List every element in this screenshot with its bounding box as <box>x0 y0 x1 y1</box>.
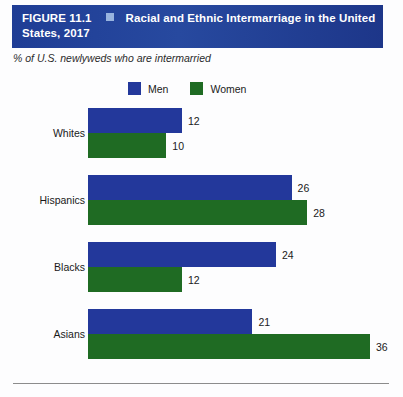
figure-header-line-1: FIGURE 11.1Racial and Ethnic Intermarria… <box>22 11 373 26</box>
figure-title-line-1: Racial and Ethnic Intermarriage in the U… <box>126 12 376 24</box>
bar-hispanics-women <box>88 200 307 225</box>
chart-plot-area: Whites 12 10 Hispanics 26 28 Blacks 24 1… <box>0 108 403 380</box>
bar-value-whites-women: 10 <box>172 140 184 152</box>
legend-label-men: Men <box>148 83 168 95</box>
figure-title-line-2: States, 2017 <box>22 26 373 41</box>
category-label-whites: Whites <box>5 127 85 139</box>
bar-row-whites-men: 12 <box>88 108 200 133</box>
bar-row-asians-men: 21 <box>88 309 270 334</box>
bar-asians-women <box>88 334 370 359</box>
bar-group-asians: Asians 21 36 <box>0 309 403 359</box>
bar-row-hispanics-women: 28 <box>88 200 325 225</box>
bar-value-hispanics-women: 28 <box>313 207 325 219</box>
bar-row-blacks-women: 12 <box>88 267 200 292</box>
bar-asians-men <box>88 309 252 334</box>
bar-whites-women <box>88 133 166 158</box>
bar-value-blacks-women: 12 <box>188 274 200 286</box>
figure-header-bar: FIGURE 11.1Racial and Ethnic Intermarria… <box>12 5 383 48</box>
bar-whites-men <box>88 108 182 133</box>
chart-legend: Men Women <box>128 82 246 95</box>
bar-row-blacks-men: 24 <box>88 242 294 267</box>
figure-number-label: FIGURE 11.1 <box>22 12 92 24</box>
bar-row-asians-women: 36 <box>88 334 388 359</box>
bar-value-asians-women: 36 <box>376 341 388 353</box>
category-label-asians: Asians <box>5 328 85 340</box>
bar-hispanics-men <box>88 175 292 200</box>
bar-value-hispanics-men: 26 <box>298 182 310 194</box>
category-label-blacks: Blacks <box>5 261 85 273</box>
square-bullet-icon <box>106 13 114 21</box>
legend-item-women: Women <box>190 82 246 95</box>
legend-swatch-women-icon <box>190 82 203 95</box>
bar-value-whites-men: 12 <box>188 115 200 127</box>
bar-value-asians-men: 21 <box>258 316 270 328</box>
bar-row-hispanics-men: 26 <box>88 175 309 200</box>
legend-item-men: Men <box>128 82 168 95</box>
bar-group-hispanics: Hispanics 26 28 <box>0 175 403 225</box>
bottom-divider <box>13 383 389 384</box>
bar-group-whites: Whites 12 10 <box>0 108 403 158</box>
bar-row-whites-women: 10 <box>88 133 184 158</box>
legend-swatch-men-icon <box>128 82 141 95</box>
bar-blacks-women <box>88 267 182 292</box>
bar-group-blacks: Blacks 24 12 <box>0 242 403 292</box>
legend-label-women: Women <box>210 83 246 95</box>
category-label-hispanics: Hispanics <box>5 194 85 206</box>
bar-value-blacks-men: 24 <box>282 249 294 261</box>
chart-subtitle: % of U.S. newlyweds who are intermarried <box>13 52 211 64</box>
bar-blacks-men <box>88 242 276 267</box>
